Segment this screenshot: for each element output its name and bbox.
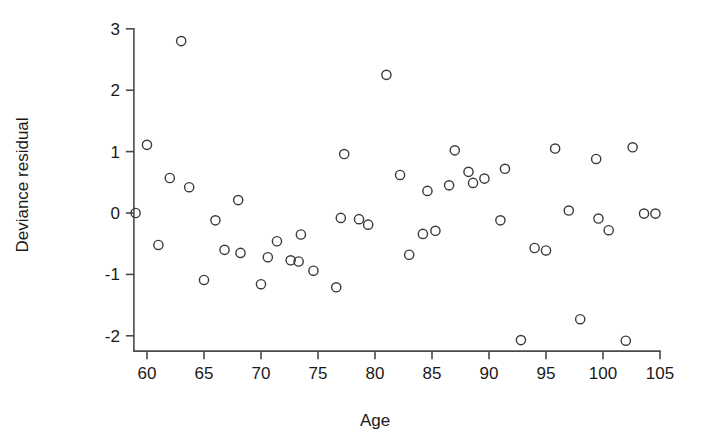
x-tick-label: 60 bbox=[138, 364, 157, 383]
data-point bbox=[651, 209, 660, 218]
x-axis: 6065707580859095100105 bbox=[134, 351, 674, 383]
x-tick-label: 75 bbox=[309, 364, 328, 383]
data-point bbox=[594, 214, 603, 223]
data-point bbox=[445, 181, 454, 190]
data-point bbox=[263, 253, 272, 262]
y-tick-label: 0 bbox=[110, 204, 119, 223]
y-tick-label: -1 bbox=[105, 265, 120, 284]
data-point bbox=[564, 206, 573, 215]
data-point bbox=[405, 250, 414, 259]
data-point bbox=[340, 149, 349, 158]
data-point bbox=[220, 245, 229, 254]
data-point bbox=[530, 243, 539, 252]
x-tick-label: 85 bbox=[423, 364, 442, 383]
data-point bbox=[199, 275, 208, 284]
data-point bbox=[604, 226, 613, 235]
data-point bbox=[576, 315, 585, 324]
data-point bbox=[272, 237, 281, 246]
y-tick-label: 2 bbox=[110, 81, 119, 100]
data-point bbox=[621, 336, 630, 345]
y-tick-label: -2 bbox=[105, 327, 120, 346]
x-tick-label: 100 bbox=[589, 364, 617, 383]
data-point bbox=[639, 209, 648, 218]
data-point bbox=[165, 173, 174, 182]
scatter-plot-figure: -2-10123 6065707580859095100105 Age Devi… bbox=[0, 0, 708, 442]
data-point bbox=[592, 154, 601, 163]
data-point bbox=[541, 246, 550, 255]
x-tick-label: 105 bbox=[646, 364, 674, 383]
chart-canvas: -2-10123 6065707580859095100105 Age Devi… bbox=[0, 0, 708, 442]
data-point bbox=[480, 174, 489, 183]
y-axis: -2-10123 bbox=[105, 20, 134, 351]
data-point bbox=[496, 216, 505, 225]
y-axis-title: Deviance residual bbox=[13, 117, 32, 252]
data-points-layer bbox=[131, 36, 660, 345]
data-point bbox=[236, 248, 245, 257]
y-tick-label: 3 bbox=[110, 20, 119, 39]
data-point bbox=[296, 230, 305, 239]
data-point bbox=[211, 216, 220, 225]
data-point bbox=[364, 220, 373, 229]
data-point bbox=[468, 178, 477, 187]
data-point bbox=[464, 167, 473, 176]
data-point bbox=[336, 213, 345, 222]
data-point bbox=[395, 170, 404, 179]
x-tick-label: 65 bbox=[195, 364, 214, 383]
data-point bbox=[185, 183, 194, 192]
data-point bbox=[382, 70, 391, 79]
data-point bbox=[154, 240, 163, 249]
data-point bbox=[551, 144, 560, 153]
x-tick-label: 95 bbox=[537, 364, 556, 383]
data-point bbox=[628, 143, 637, 152]
data-point bbox=[516, 336, 525, 345]
data-point bbox=[142, 140, 151, 149]
data-point bbox=[500, 164, 509, 173]
data-point bbox=[177, 36, 186, 45]
data-point bbox=[256, 280, 265, 289]
x-axis-title: Age bbox=[360, 411, 390, 430]
data-point bbox=[418, 229, 427, 238]
data-point bbox=[450, 146, 459, 155]
x-tick-label: 80 bbox=[366, 364, 385, 383]
data-point bbox=[431, 226, 440, 235]
y-tick-label: 1 bbox=[110, 143, 119, 162]
data-point bbox=[234, 196, 243, 205]
data-point bbox=[354, 215, 363, 224]
data-point bbox=[423, 186, 432, 195]
data-point bbox=[309, 266, 318, 275]
x-tick-label: 90 bbox=[480, 364, 499, 383]
x-tick-label: 70 bbox=[252, 364, 271, 383]
data-point bbox=[332, 283, 341, 292]
